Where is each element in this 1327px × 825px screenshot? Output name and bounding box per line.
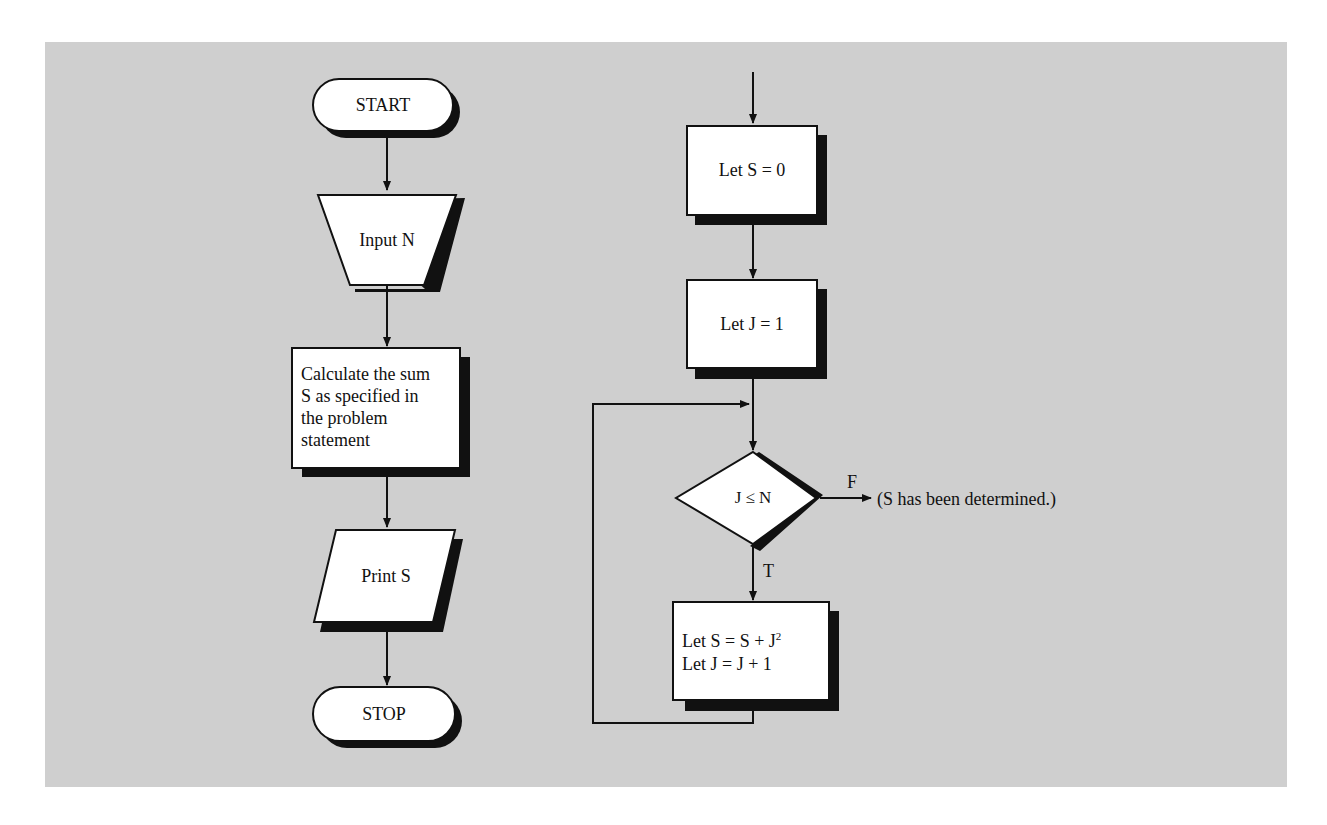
decision-label: J ≤ N [703,487,803,509]
loop-body-line-1-text: Let S = S + J [682,631,776,651]
calculate-label: Calculate the sum S as specified in the … [301,363,461,451]
false-branch-label: F [847,471,857,493]
print-label: Print S [318,565,454,587]
init-s-label: Let S = 0 [687,159,817,181]
exit-note: (S has been determined.) [877,488,1056,510]
true-branch-label: T [763,560,774,582]
stop-label: STOP [313,703,455,725]
exponent: 2 [776,630,782,642]
loop-body-line-1: Let S = S + J2 [682,630,781,652]
loop-body-line-2: Let J = J + 1 [682,653,772,675]
start-label: START [313,94,453,116]
input-label: Input N [318,229,456,251]
flowchart-graphics [0,0,1327,825]
init-j-label: Let J = 1 [687,313,817,335]
